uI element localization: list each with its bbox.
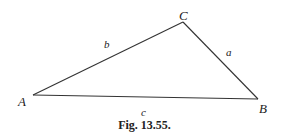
vertex-label-b: B <box>259 102 267 115</box>
side-label-c: c <box>141 107 146 118</box>
side-label-b: b <box>104 39 110 50</box>
side-b-line <box>33 22 183 95</box>
vertex-label-a: A <box>18 95 26 108</box>
side-c-line <box>33 95 258 99</box>
figure-caption: Fig. 13.55. <box>0 118 281 133</box>
triangle-figure: C A B b a c Fig. 13.55. <box>0 0 281 136</box>
side-label-a: a <box>226 47 232 58</box>
vertex-label-c: C <box>179 9 188 22</box>
side-a-line <box>183 22 258 99</box>
